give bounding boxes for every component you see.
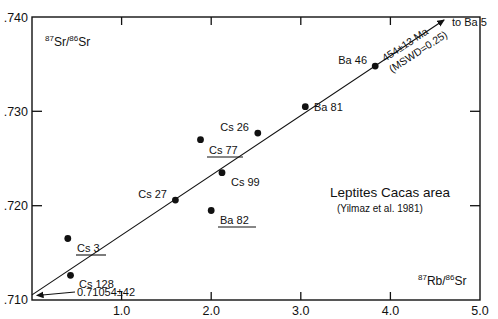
- data-point-label: Cs 3: [77, 242, 100, 254]
- y-tick-label-720: .720: [4, 199, 28, 213]
- data-point-label: Cs 77: [209, 144, 238, 156]
- chart-title: Leptites Cacas area: [330, 185, 451, 200]
- y-tick-label-740: .740: [4, 11, 28, 25]
- x-tick-label-5: 5.0: [471, 304, 488, 318]
- chart-subtitle: (Yilmaz et al. 1981): [337, 203, 423, 214]
- y-tick-label-710: .710: [4, 293, 28, 307]
- x-tick-label-4: 4.0: [382, 304, 399, 318]
- data-point-label: Cs 99: [231, 176, 260, 188]
- isochron-end-label: to Ba 5: [452, 16, 487, 28]
- data-point-label: Cs 128: [79, 278, 114, 290]
- isochron-plot-svg: 1.0 2.0 3.0 4.0 5.0 .710 .720 .730 .740 …: [0, 0, 498, 319]
- data-point-label: Cs 27: [138, 188, 167, 200]
- y-tick-label-730: .730: [4, 105, 28, 119]
- data-point-label: Ba 81: [314, 101, 343, 113]
- y-axis-label-base1: Sr: [54, 35, 66, 49]
- x-tick-label-2: 2.0: [203, 304, 220, 318]
- x-axis-label-base1: Rb: [427, 274, 443, 288]
- x-tick-label-3: 3.0: [292, 304, 309, 318]
- x-tick-label-1: 1.0: [113, 304, 130, 318]
- x-axis-label-base2: Sr: [455, 274, 467, 288]
- isochron-figure: 1.0 2.0 3.0 4.0 5.0 .710 .720 .730 .740 …: [0, 0, 498, 319]
- data-point-label: Ba 82: [220, 214, 249, 226]
- data-point-label: Cs 26: [220, 121, 249, 133]
- y-axis-label-base2: Sr: [78, 35, 90, 49]
- data-point-label: Ba 46: [338, 54, 367, 66]
